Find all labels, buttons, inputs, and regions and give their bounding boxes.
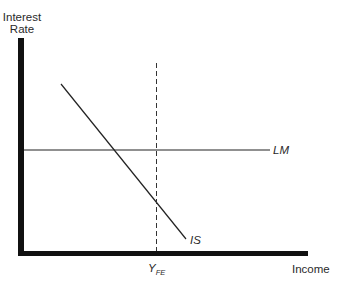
y-axis-label-line2: Rate (10, 23, 34, 35)
y-axis (18, 38, 24, 256)
x-axis-label: Income (292, 263, 330, 275)
x-axis (18, 251, 308, 256)
is-label: IS (190, 234, 201, 246)
is-curve (61, 84, 186, 239)
is-lm-diagram: Interest Rate LM IS YFE Income (0, 0, 339, 281)
y-axis-label-line1: Interest (3, 11, 42, 23)
lm-label: LM (273, 144, 289, 156)
yfe-label-subscript: FE (156, 268, 167, 277)
yfe-label: YFE (148, 262, 166, 277)
